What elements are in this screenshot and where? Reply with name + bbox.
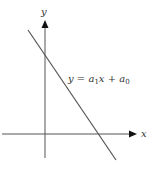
y-axis-arrowhead-icon <box>42 20 49 28</box>
regression-line <box>28 30 116 160</box>
equation-label: y = a1x + a0 <box>67 73 130 86</box>
x-axis-arrowhead-icon <box>129 131 137 138</box>
x-axis-label: x <box>141 128 147 139</box>
line-diagram: y x y = a1x + a0 <box>0 0 154 170</box>
y-axis-label: y <box>40 6 47 17</box>
